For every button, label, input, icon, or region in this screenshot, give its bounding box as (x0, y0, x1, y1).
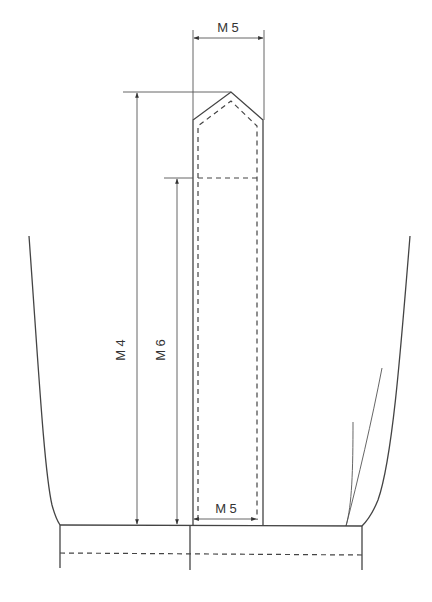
right-side-curve (362, 236, 410, 526)
pattern-diagram: M 5 M 4 M 6 M 5 (0, 0, 432, 602)
bottom-band (60, 525, 362, 570)
band-stitch-line (60, 553, 362, 555)
bottom-width-dimension: M 5 (194, 501, 256, 519)
left-side-curve (29, 236, 60, 525)
strip-outline (193, 92, 263, 525)
band-top-line (60, 525, 362, 526)
strip-seam-allowance (198, 101, 257, 520)
top-width-label: M 5 (217, 20, 239, 35)
total-height-dimension: M 4 (113, 92, 231, 524)
bottom-width-label: M 5 (215, 501, 237, 516)
body-height-label: M 6 (153, 339, 168, 361)
pattern-drawing: M 5 M 4 M 6 M 5 (0, 0, 432, 602)
body-height-dimension: M 6 (153, 178, 193, 524)
total-height-label: M 4 (113, 339, 128, 361)
pointed-strip (193, 92, 263, 525)
right-fold-line-inner (346, 422, 353, 526)
top-width-dimension: M 5 (193, 20, 264, 120)
